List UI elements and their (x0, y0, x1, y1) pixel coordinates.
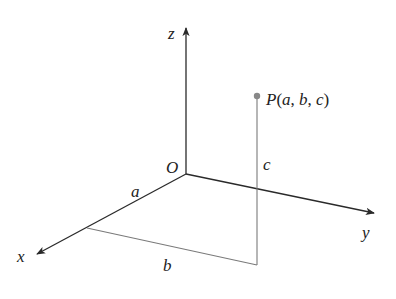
y-axis (186, 174, 374, 213)
b-segment-label: b (163, 256, 172, 275)
z-axis-label: z (167, 24, 175, 43)
origin-label: O (166, 158, 178, 177)
c-segment-label: c (263, 155, 271, 174)
point-p-label: P(a, b, c) (265, 90, 329, 109)
x-axis-label: x (16, 247, 25, 266)
a-segment-label: a (131, 182, 140, 201)
b-guide-line (87, 228, 257, 265)
point-p-dot (254, 93, 260, 99)
y-axis-label: y (360, 223, 370, 242)
x-axis (37, 174, 186, 254)
coordinate-diagram: z y x O P(a, b, c) a b c (0, 0, 396, 299)
